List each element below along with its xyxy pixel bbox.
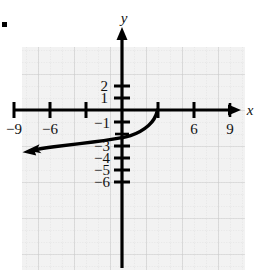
y-axis-arrowhead xyxy=(117,27,128,40)
y-axis-label: y xyxy=(119,10,128,26)
graph-svg: −9 −6 6 9 2 1 −1 −3 −4 −5 −6 x y xyxy=(0,0,264,279)
x-tick-label--9: −9 xyxy=(6,121,22,137)
x-tick-label-6: 6 xyxy=(190,121,198,137)
figure-container: −9 −6 6 9 2 1 −1 −3 −4 −5 −6 x y xyxy=(0,0,264,279)
x-tick-label--6: −6 xyxy=(42,121,58,137)
y-tick-label--6: −6 xyxy=(94,174,110,190)
x-tick-label-9: 9 xyxy=(226,121,234,137)
y-tick-label--1: −1 xyxy=(94,115,110,131)
major-gridlines xyxy=(22,47,245,270)
y-tick-label-1: 1 xyxy=(101,90,109,106)
x-axis-label: x xyxy=(246,102,254,118)
bullet-marker xyxy=(2,22,7,27)
